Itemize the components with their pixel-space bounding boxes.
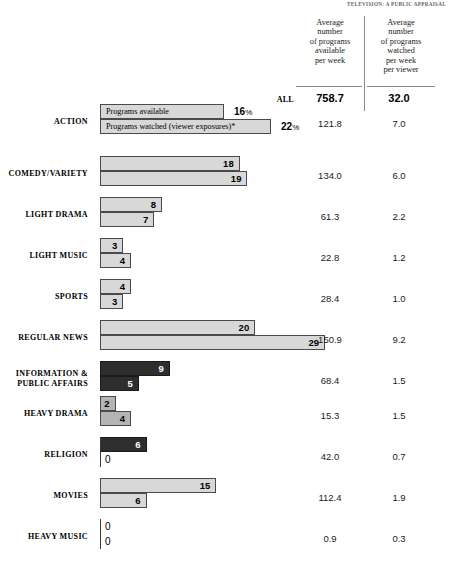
- bar-value-available: 15: [200, 481, 211, 491]
- bar-available: 20: [100, 320, 255, 335]
- bar-value-watched: 7: [143, 215, 148, 225]
- value-watched-per-week: 1.5: [368, 410, 430, 421]
- value-available-per-week: 28.4: [300, 293, 360, 304]
- value-available-per-week: 150.9: [300, 334, 360, 345]
- category-label-religion: RELIGION: [0, 450, 88, 460]
- bar-available: 9: [100, 361, 170, 376]
- value-available-per-week: 121.8: [300, 118, 360, 129]
- category-label-line: PUBLIC AFFAIRS: [0, 379, 88, 389]
- bar-value-available: 20: [239, 323, 250, 333]
- bar-value-watched: 4: [120, 256, 125, 266]
- value-watched-per-week: 1.2: [368, 252, 430, 263]
- value-watched-per-week: 0.7: [368, 451, 430, 462]
- value-watched-per-week: 2.2: [368, 211, 430, 222]
- category-label-light-music: LIGHT MUSIC: [0, 251, 88, 261]
- bar-value-watched: 3: [112, 297, 117, 307]
- category-label-movies: MOVIES: [0, 491, 88, 501]
- bar-available: Programs available: [100, 104, 224, 119]
- bar-watched: Programs watched (viewer exposures)*: [100, 119, 271, 134]
- header-rule-left: [296, 86, 362, 87]
- column-header-watched-line: number: [368, 27, 434, 36]
- all-row-watched-value: 32.0: [368, 92, 430, 104]
- bar-value-available: 4: [120, 282, 125, 292]
- column-header-watched: Averagenumberof programswatchedper weekp…: [368, 18, 434, 74]
- legend-label-available: Programs available: [106, 107, 169, 115]
- value-watched-per-week: 6.0: [368, 170, 430, 181]
- category-label-line: RELIGION: [0, 450, 88, 460]
- zero-value-watched: 0: [105, 452, 111, 467]
- category-label-line: COMEDY/VARIETY: [0, 169, 88, 179]
- bar-value-available: 8: [151, 200, 156, 210]
- chart-root: TELEVISION: A PUBLIC APPRAISAL Averagenu…: [0, 0, 450, 562]
- all-row-available-value: 758.7: [300, 92, 360, 104]
- bar-available: 8: [100, 197, 162, 212]
- category-label-comedy-variety: COMEDY/VARIETY: [0, 169, 88, 179]
- value-watched-per-week: 7.0: [368, 118, 430, 129]
- category-label-line: INFORMATION &: [0, 369, 88, 379]
- category-label-line: MOVIES: [0, 491, 88, 501]
- zero-axis-tick: [100, 437, 101, 467]
- header-vertical-divider: [364, 16, 365, 111]
- column-header-available: Averagenumberof programsavailableper wee…: [300, 18, 360, 65]
- value-available-per-week: 22.8: [300, 252, 360, 263]
- bar-available: 15: [100, 478, 216, 493]
- bar-value-available: 9: [159, 364, 164, 374]
- bar-value-watched: 19: [231, 174, 242, 184]
- column-header-available-line: available: [300, 46, 360, 55]
- bar-value-watched: 5: [128, 379, 133, 389]
- header-rule-right: [367, 86, 435, 87]
- category-label-line: LIGHT MUSIC: [0, 251, 88, 261]
- value-available-per-week: 42.0: [300, 451, 360, 462]
- category-label-heavy-drama: HEAVY DRAMA: [0, 409, 88, 419]
- value-available-per-week: 15.3: [300, 410, 360, 421]
- bar-watched: 6: [100, 493, 147, 508]
- bar-watched: 4: [100, 253, 131, 268]
- pct-label-watched: 22%: [281, 122, 299, 132]
- column-header-watched-line: Average: [368, 18, 434, 27]
- zero-value-watched: 0: [105, 534, 111, 549]
- bar-value-available: 3: [112, 241, 117, 251]
- column-header-watched-line: of programs: [368, 37, 434, 46]
- category-label-line: LIGHT DRAMA: [0, 210, 88, 220]
- bar-watched: 7: [100, 212, 154, 227]
- pct-symbol-available: %: [245, 108, 252, 117]
- legend-label-watched: Programs watched (viewer exposures)*: [106, 122, 235, 130]
- bar-watched: 19: [100, 171, 247, 186]
- column-header-available-line: per week: [300, 56, 360, 65]
- value-available-per-week: 134.0: [300, 170, 360, 181]
- category-label-light-drama: LIGHT DRAMA: [0, 210, 88, 220]
- category-label-line: HEAVY DRAMA: [0, 409, 88, 419]
- value-available-per-week: 0.9: [300, 533, 360, 544]
- value-watched-per-week: 1.9: [368, 492, 430, 503]
- value-watched-per-week: 1.0: [368, 293, 430, 304]
- running-head: TELEVISION: A PUBLIC APPRAISAL: [250, 1, 446, 7]
- bar-value-available: 6: [135, 440, 140, 450]
- bar-value-available: 18: [223, 159, 234, 169]
- value-watched-per-week: 1.5: [368, 375, 430, 386]
- zero-axis-tick: [100, 519, 101, 549]
- bar-value-watched: 4: [120, 414, 125, 424]
- bar-watched: 29: [100, 335, 325, 350]
- bar-available: 18: [100, 156, 240, 171]
- column-header-available-line: Average: [300, 18, 360, 27]
- category-label-line: HEAVY MUSIC: [0, 532, 88, 542]
- zero-value-available: 0: [105, 519, 111, 534]
- category-label-action: ACTION: [0, 117, 88, 127]
- column-header-available-line: of programs: [300, 37, 360, 46]
- pct-symbol-watched: %: [292, 123, 299, 132]
- bar-available: 3: [100, 238, 123, 253]
- category-label-heavy-music: HEAVY MUSIC: [0, 532, 88, 542]
- value-available-per-week: 68.4: [300, 375, 360, 386]
- pct-number-watched: 22: [281, 121, 292, 132]
- value-watched-per-week: 9.2: [368, 334, 430, 345]
- bar-available: 2: [100, 396, 116, 411]
- category-label-line: REGULAR NEWS: [0, 333, 88, 343]
- all-row-label: ALL: [250, 95, 294, 104]
- pct-number-available: 16: [234, 106, 245, 117]
- bar-value-available: 2: [104, 399, 109, 409]
- value-watched-per-week: 0.3: [368, 533, 430, 544]
- category-label-line: ACTION: [0, 117, 88, 127]
- category-label-line: SPORTS: [0, 292, 88, 302]
- bar-value-watched: 6: [135, 496, 140, 506]
- column-header-watched-line: per week: [368, 56, 434, 65]
